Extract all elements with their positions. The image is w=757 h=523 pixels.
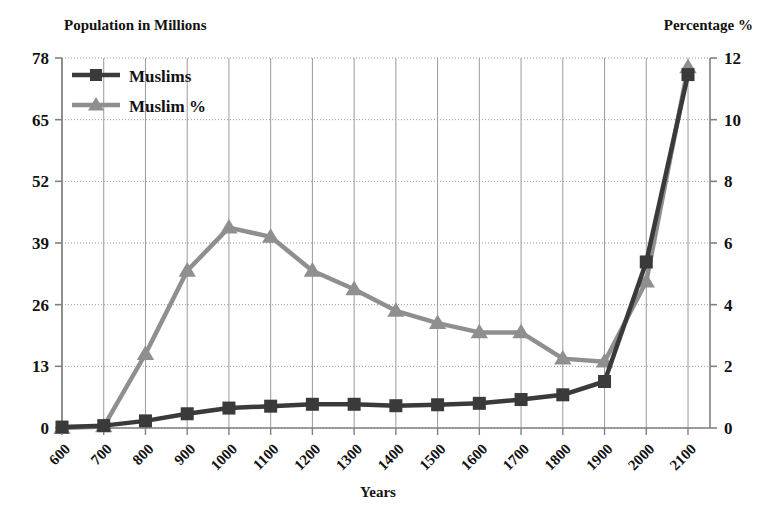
data-point-marker: [431, 398, 444, 411]
legend-label: Muslim %: [129, 97, 206, 116]
data-point-marker: [682, 68, 695, 81]
legend-label: Muslims: [129, 67, 192, 86]
left-tick-label: 65: [32, 111, 49, 130]
data-point-marker: [515, 393, 528, 406]
data-point-marker: [473, 397, 486, 410]
left-tick-label: 52: [32, 172, 49, 191]
right-tick-label: 12: [724, 49, 741, 68]
left-tick-label: 78: [32, 49, 49, 68]
data-point-marker: [264, 400, 277, 413]
data-point-marker: [97, 419, 110, 432]
legend-marker: [90, 69, 102, 81]
chart-container: Population in Millions Percentage % 0132…: [0, 0, 757, 523]
x-axis-title: Years: [360, 484, 396, 500]
left-tick-label: 13: [32, 357, 49, 376]
right-tick-label: 2: [724, 357, 733, 376]
left-axis-title: Population in Millions: [64, 17, 207, 33]
data-point-marker: [139, 414, 152, 427]
data-point-marker: [348, 398, 361, 411]
right-axis-title: Percentage %: [664, 17, 753, 33]
data-point-marker: [640, 255, 653, 268]
left-tick-label: 0: [41, 419, 50, 438]
data-point-marker: [389, 399, 402, 412]
chart-canvas: Population in Millions Percentage % 0132…: [0, 0, 757, 523]
data-point-marker: [556, 388, 569, 401]
right-tick-label: 4: [724, 296, 733, 315]
left-tick-label: 39: [32, 234, 49, 253]
left-tick-label: 26: [32, 296, 49, 315]
data-point-marker: [181, 407, 194, 420]
data-point-marker: [306, 398, 319, 411]
data-point-marker: [598, 375, 611, 388]
data-point-marker: [56, 421, 69, 434]
data-point-marker: [222, 402, 235, 415]
right-tick-label: 6: [724, 234, 733, 253]
right-tick-label: 10: [724, 111, 741, 130]
right-tick-label: 0: [724, 419, 733, 438]
right-tick-label: 8: [724, 172, 733, 191]
